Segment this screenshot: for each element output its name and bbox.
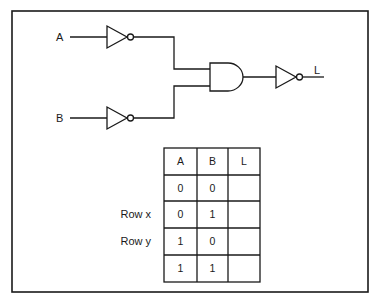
table-cell: 0 (210, 182, 216, 194)
row-label-x: Row x (120, 208, 151, 220)
table-cell: 0 (178, 182, 184, 194)
wire-a-to-and (134, 37, 210, 69)
input-a-label: A (56, 31, 64, 43)
output-l-label: L (314, 64, 320, 76)
logic-diagram: A B L A B L 0 0 Row x 0 1 (0, 0, 375, 303)
table-header-a: A (177, 155, 184, 167)
table-cell: 1 (210, 208, 216, 220)
input-b-label: B (56, 112, 63, 124)
table-cell: 0 (178, 208, 184, 220)
table-header-b: B (209, 155, 216, 167)
wire-b-to-and (134, 86, 210, 118)
and-gate-icon (210, 63, 243, 91)
not-gate-a-icon (107, 26, 134, 48)
table-cell: 0 (210, 235, 216, 247)
not-gate-output-icon (276, 66, 303, 88)
outer-frame (12, 11, 368, 292)
table-cell: 1 (178, 235, 184, 247)
table-cell: 1 (210, 262, 216, 274)
table-header-l: L (241, 155, 247, 167)
row-label-y: Row y (120, 235, 151, 247)
not-gate-b-icon (107, 107, 134, 129)
table-cell: 1 (178, 262, 184, 274)
